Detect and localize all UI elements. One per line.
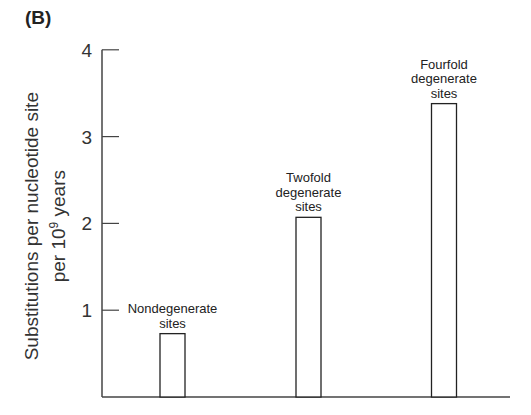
bar-label: Nondegenerate: [128, 301, 218, 316]
bar-label: sites: [295, 199, 322, 214]
y-tick-label: 1: [81, 300, 92, 321]
bar: [432, 104, 457, 397]
bar-label: degenerate: [411, 71, 477, 86]
y-tick-label: 4: [81, 40, 92, 61]
bar: [296, 217, 321, 397]
bar-label: sites: [431, 86, 458, 101]
bar: [160, 334, 185, 397]
bar-chart: 1234NondegeneratesitesTwofolddegenerates…: [0, 0, 531, 415]
y-tick-label: 2: [81, 213, 92, 234]
y-tick-label: 3: [81, 127, 92, 148]
bar-label: sites: [159, 316, 186, 331]
bar-label: degenerate: [276, 185, 342, 200]
bar-label: Twofold: [286, 170, 331, 185]
bar-label: Fourfold: [420, 57, 468, 72]
